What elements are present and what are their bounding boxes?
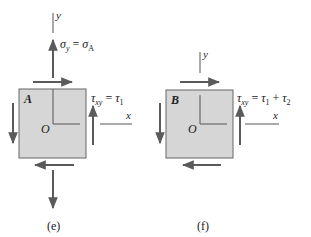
y-axis-label: y	[55, 9, 61, 21]
element-label-b: B	[170, 93, 179, 107]
shear-stress-label: τxy = τ1	[91, 91, 123, 107]
caption-e: (e)	[47, 219, 60, 233]
figure-f: y B O τxy = τ1 + τ2 x (f)	[160, 48, 291, 233]
origin-label: O	[41, 122, 50, 136]
origin-label: O	[188, 122, 197, 136]
normal-stress-label: σy = σA	[60, 37, 94, 53]
y-axis-label: y	[202, 48, 208, 60]
x-axis-label: x	[272, 109, 278, 121]
shear-stress-label: τxy = τ1 + τ2	[237, 91, 291, 107]
figure-e: y σy = σA A O τxy = τ1 x (e)	[13, 9, 132, 233]
element-label-a: A	[23, 92, 32, 106]
stress-element-diagram: y σy = σA A O τxy = τ1 x (e)	[0, 0, 311, 237]
caption-f: (f)	[197, 219, 209, 233]
x-axis-label: x	[125, 109, 131, 121]
